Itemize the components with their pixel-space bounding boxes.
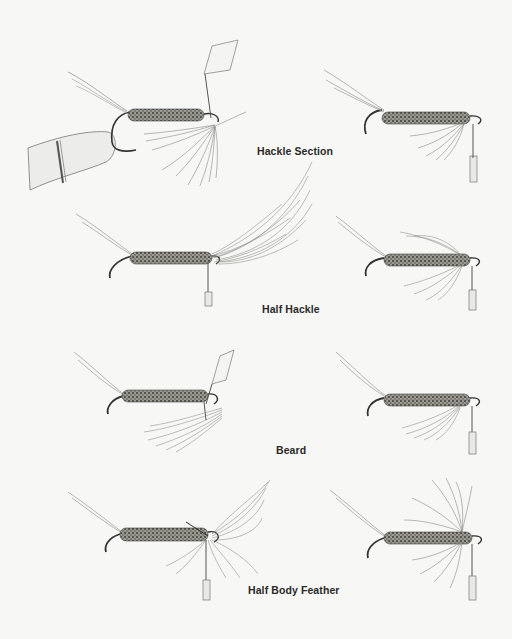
caption-beard: Beard [276,444,306,456]
caption-half-body-feather: Half Body Feather [248,584,340,596]
caption-hackle-section: Hackle Section [257,145,333,157]
row3-left-fly [74,350,234,452]
illustration-plate: Hackle Section Half Hackle Beard Half Bo… [0,0,512,639]
row4-right-fly [330,478,481,600]
row3-right-fly [336,352,479,454]
row1-left-fly [28,40,246,190]
caption-half-hackle: Half Hackle [262,303,320,315]
row2-left-fly [76,162,312,306]
row4-left-fly [68,480,270,600]
fly-tying-illustrations [0,0,512,639]
row2-right-fly [336,216,479,310]
row1-right-fly [324,70,481,182]
